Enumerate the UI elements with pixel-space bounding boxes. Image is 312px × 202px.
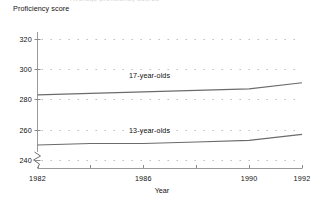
- y-tick-label-280: 280: [8, 95, 32, 104]
- x-tick-label-1986: 1986: [123, 174, 163, 183]
- y-tick-label-300: 300: [8, 65, 32, 74]
- series-label-13-year-olds: 13-year-olds: [129, 126, 170, 135]
- axes-group: [34, 32, 303, 169]
- proficiency-score-line-chart: Average proficiency scores Proficiency s…: [0, 0, 312, 202]
- x-tick-label-1992: 1992: [282, 174, 312, 183]
- y-tick-label-320: 320: [8, 35, 32, 44]
- y-tick-label-260: 260: [8, 126, 32, 135]
- x-tick-label-1990: 1990: [229, 174, 269, 183]
- series-line-13-year-olds: [38, 134, 303, 145]
- x-tick-marks-group: [39, 165, 303, 169]
- x-axis-title-text: Year: [155, 186, 170, 195]
- x-tick-label-1982: 1982: [18, 174, 58, 183]
- series-label-17-year-olds: 17-year-olds: [129, 71, 170, 80]
- plot-area: [0, 0, 312, 202]
- series-line-17-year-olds: [38, 83, 303, 95]
- x-axis-title: Year: [0, 186, 312, 195]
- y-tick-label-240: 240: [8, 156, 32, 165]
